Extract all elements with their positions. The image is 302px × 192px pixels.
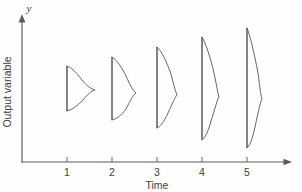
distribution-time-1 bbox=[67, 66, 95, 111]
y-axis-title: Output variable bbox=[1, 56, 13, 127]
distribution-curve bbox=[112, 57, 136, 120]
tick-label-1: 1 bbox=[64, 166, 70, 178]
distribution-curve bbox=[67, 66, 95, 111]
y-axis-arrowhead bbox=[19, 14, 26, 23]
y-axis-symbol: y bbox=[26, 2, 32, 14]
distribution-time-2 bbox=[112, 57, 136, 120]
distribution-time-3 bbox=[157, 47, 177, 128]
x-axis-title: Time bbox=[146, 179, 169, 191]
distribution-curve bbox=[202, 37, 219, 140]
tick-label-5: 5 bbox=[244, 166, 250, 178]
x-axis-tick-labels: 1 2 3 4 5 bbox=[64, 166, 250, 178]
distribution-curve bbox=[157, 47, 177, 128]
tick-label-2: 2 bbox=[109, 166, 115, 178]
distribution-curve bbox=[247, 28, 262, 148]
distribution-time-4 bbox=[202, 37, 219, 140]
x-axis-arrowhead bbox=[284, 159, 293, 166]
distribution-time-5 bbox=[247, 28, 262, 148]
figure-container: y 1 2 3 4 5 Time Output variable bbox=[0, 0, 302, 192]
tick-label-4: 4 bbox=[199, 166, 205, 178]
x-axis-ticks bbox=[67, 157, 247, 162]
tick-label-3: 3 bbox=[154, 166, 160, 178]
plot-canvas: y 1 2 3 4 5 Time Output variable bbox=[0, 0, 302, 192]
